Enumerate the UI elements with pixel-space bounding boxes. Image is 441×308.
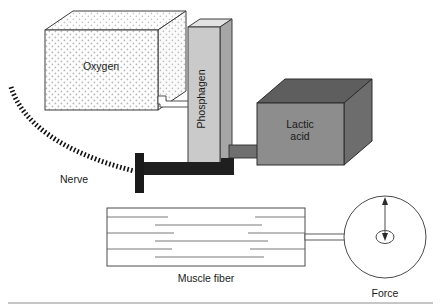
lactic-acid-label-line1: Lactic — [286, 118, 313, 130]
figure-canvas: Oxygen Phosphagen Lactic acid Nerve — [0, 0, 441, 308]
tendon-clamp-plate — [135, 153, 144, 193]
lactic-acid-label-line2: acid — [290, 130, 309, 142]
phosphagen-label: Phosphagen — [195, 69, 207, 128]
tendon-horizontal-shaft — [144, 162, 234, 175]
force-label: Force — [372, 287, 399, 299]
oxygen-box: Oxygen — [45, 11, 186, 110]
force-transmission-rod — [305, 234, 349, 240]
phosphagen-side-face — [220, 19, 232, 166]
tendon-corner-riser — [221, 158, 234, 175]
diagram-svg: Oxygen Phosphagen Lactic acid Nerve — [0, 0, 441, 308]
oxygen-label: Oxygen — [83, 60, 119, 72]
nerve-label: Nerve — [60, 173, 88, 185]
force-rod-body — [305, 234, 349, 240]
muscle-fiber: Muscle fiber — [107, 208, 305, 284]
force-gauge: Force — [344, 196, 426, 299]
phosphagen-column: Phosphagen — [188, 19, 232, 166]
lactic-acid-box: Lactic acid — [257, 79, 372, 165]
muscle-fiber-label: Muscle fiber — [178, 272, 235, 284]
